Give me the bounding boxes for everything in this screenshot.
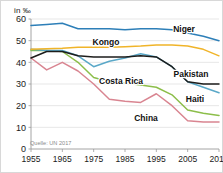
x-axis-ticks: 1955196519751985199520052015: [22, 149, 223, 164]
x-tick-label-2005: 2005: [178, 154, 197, 164]
y-tick-label-20: 20: [16, 101, 26, 111]
series-label-niger: Niger: [173, 24, 195, 34]
series-label-costa-rica: Costa Rica: [99, 76, 143, 86]
series-label-pakistan: Pakistan: [174, 69, 209, 79]
x-tick-label-1955: 1955: [22, 154, 41, 164]
y-tick-label-50: 50: [16, 36, 26, 46]
y-tick-label-60: 60: [16, 14, 26, 24]
y-axis-ticks: 0102030405060: [16, 14, 31, 154]
x-tick-label-1985: 1985: [116, 154, 135, 164]
x-tick-label-1965: 1965: [53, 154, 72, 164]
series-inline-labels: NigerKongoPakistanCosta RicaHaitiChina: [93, 24, 209, 123]
series-label-kongo: Kongo: [93, 37, 120, 47]
y-tick-label-30: 30: [16, 79, 26, 89]
x-tick-label-1995: 1995: [147, 154, 166, 164]
y-tick-label-10: 10: [16, 123, 26, 133]
line-chart-plot: 0102030405060 19551965197519851995200520…: [1, 1, 223, 173]
series-label-china: China: [134, 113, 158, 123]
chart-container: in ‰ 0102030405060 195519651975198519952…: [0, 0, 223, 173]
y-tick-label-40: 40: [16, 58, 26, 68]
x-tick-label-2015: 2015: [210, 154, 223, 164]
y-tick-label-0: 0: [21, 144, 26, 154]
series-label-haiti: Haiti: [186, 94, 204, 104]
source-attribution: Quelle: UN 2017: [30, 140, 71, 146]
x-tick-label-1975: 1975: [84, 154, 103, 164]
series-line-china: [31, 58, 219, 122]
